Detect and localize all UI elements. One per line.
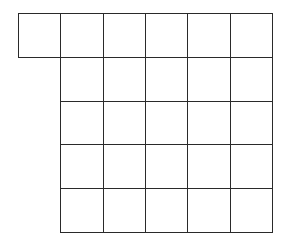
grid-cell [60,57,104,102]
grid-cell [103,101,146,145]
grid-cell [60,13,104,58]
grid-cell [145,144,188,189]
grid-cell [103,188,146,233]
grid-cell [60,188,104,233]
grid-cell [18,13,61,58]
grid-cell [103,144,146,189]
grid-cell [187,101,231,145]
grid-cell [187,188,231,233]
grid-cell [187,57,231,102]
grid-cell [230,101,273,145]
grid-cell [145,57,188,102]
grid-cell [145,101,188,145]
grid-cell [145,188,188,233]
grid-cell [187,144,231,189]
grid-cell [60,101,104,145]
grid-diagram [0,0,285,246]
grid-cell [103,13,146,58]
grid-cell [230,57,273,102]
grid-cell [230,13,273,58]
grid-cell [230,188,273,233]
grid-cell [60,144,104,189]
grid-cell [145,13,188,58]
grid-cell [187,13,231,58]
grid-cell [230,144,273,189]
grid-cell [103,57,146,102]
